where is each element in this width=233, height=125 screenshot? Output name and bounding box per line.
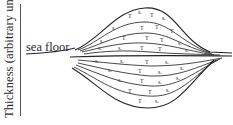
svg-text:T: T	[128, 13, 132, 19]
sea-floor-line	[26, 48, 75, 54]
svg-text:T: T	[170, 28, 174, 34]
svg-text:s.: s.	[176, 75, 180, 81]
svg-text:T: T	[158, 46, 162, 52]
svg-text:T: T	[145, 59, 149, 65]
svg-text:T: T	[140, 25, 144, 31]
svg-text:T: T	[148, 89, 152, 95]
svg-text:s.: s.	[185, 47, 189, 53]
svg-text:s.: s.	[138, 9, 142, 15]
svg-text:s.: s.	[108, 67, 112, 73]
svg-text:T: T	[140, 78, 144, 84]
svg-text:s.: s.	[118, 45, 122, 51]
svg-text:T: T	[160, 37, 164, 43]
svg-text:T: T	[122, 35, 126, 41]
lens-midline	[70, 56, 232, 57]
svg-text:s.: s.	[178, 40, 182, 46]
lower-layer-1	[78, 58, 222, 66]
svg-text:T: T	[138, 98, 142, 104]
svg-text:T: T	[145, 35, 149, 41]
svg-text:s.: s.	[100, 38, 104, 44]
svg-text:s.: s.	[180, 65, 184, 71]
upper-layer-4	[84, 51, 220, 55]
svg-text:s.: s.	[95, 58, 99, 64]
svg-text:T: T	[155, 24, 159, 30]
svg-text:T: T	[140, 45, 144, 51]
svg-text:s.: s.	[158, 69, 162, 75]
svg-text:s.: s.	[120, 58, 124, 64]
svg-text:s.: s.	[98, 45, 102, 51]
lower-layer-2	[78, 59, 220, 76]
svg-text:s.: s.	[165, 59, 169, 65]
svg-text:s.: s.	[166, 87, 170, 93]
svg-text:T: T	[128, 88, 132, 94]
svg-text:s.: s.	[112, 25, 116, 31]
lens-bottom-outline	[72, 60, 214, 108]
svg-text:s.: s.	[155, 98, 159, 104]
geology-diagram: Thickness (arbitrary units) sea floor T …	[0, 0, 233, 125]
svg-text:T: T	[138, 68, 142, 74]
svg-text:s.: s.	[162, 15, 166, 21]
svg-text:s.: s.	[158, 79, 162, 85]
sediment-lens-drawing: T s. T s. s. T T T s. T T T s. s. s. T T…	[0, 0, 233, 125]
svg-text:T: T	[150, 12, 154, 18]
svg-text:s.: s.	[118, 77, 122, 83]
